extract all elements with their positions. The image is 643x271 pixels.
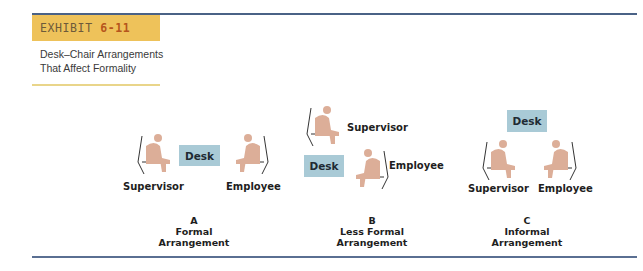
employee-figure-icon bbox=[538, 138, 578, 182]
arrangement-line-1: Less Formal bbox=[312, 226, 432, 237]
arrangement-caption-c: C Informal Arrangement bbox=[467, 215, 587, 248]
employee-label-c: Employee bbox=[538, 183, 593, 194]
arrangement-line-2: Arrangement bbox=[467, 237, 587, 248]
desk-c: Desk bbox=[507, 110, 547, 132]
exhibit-label: EXHIBIT bbox=[40, 21, 93, 35]
desk-b: Desk bbox=[304, 155, 344, 177]
employee-figure-icon bbox=[230, 132, 270, 176]
supervisor-figure-icon bbox=[305, 104, 345, 148]
employee-label-b: Employee bbox=[389, 160, 444, 171]
arrangement-letter: B bbox=[312, 215, 432, 226]
arrangement-line-1: Informal bbox=[467, 226, 587, 237]
supervisor-label-b: Supervisor bbox=[347, 122, 408, 133]
exhibit-title: EXHIBIT 6-11 bbox=[40, 21, 130, 35]
caption-line-2: That Affect Formality bbox=[40, 61, 163, 75]
caption-line-1: Desk–Chair Arrangements bbox=[40, 47, 163, 61]
exhibit-number: 6-11 bbox=[100, 21, 130, 35]
supervisor-label-c: Supervisor bbox=[468, 183, 529, 194]
arrangement-letter: C bbox=[467, 215, 587, 226]
supervisor-figure-icon bbox=[136, 132, 176, 176]
arrangement-line-2: Arrangement bbox=[312, 237, 432, 248]
exhibit-header: EXHIBIT 6-11 bbox=[32, 15, 160, 41]
desk-a: Desk bbox=[179, 145, 220, 166]
exhibit-caption: Desk–Chair Arrangements That Affect Form… bbox=[40, 47, 163, 75]
supervisor-figure-icon bbox=[481, 138, 521, 182]
arrangement-line-1: Formal bbox=[134, 226, 254, 237]
arrangement-letter: A bbox=[134, 215, 254, 226]
arrangement-caption-b: B Less Formal Arrangement bbox=[312, 215, 432, 248]
caption-rule bbox=[32, 84, 160, 86]
bottom-rule bbox=[32, 256, 637, 258]
employee-label-a: Employee bbox=[226, 181, 281, 192]
arrangement-caption-a: A Formal Arrangement bbox=[134, 215, 254, 248]
arrangement-line-2: Arrangement bbox=[134, 237, 254, 248]
employee-figure-icon bbox=[350, 147, 390, 191]
supervisor-label-a: Supervisor bbox=[123, 181, 184, 192]
